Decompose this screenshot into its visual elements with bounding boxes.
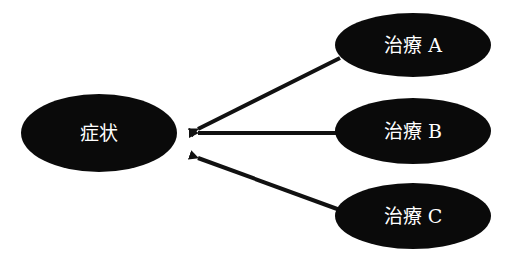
node-treatment-b[interactable]: 治療 B [335, 98, 491, 164]
node-symptom-label: 症状 [80, 122, 118, 144]
node-treatment-a[interactable]: 治療 A [335, 13, 491, 77]
arrows [198, 58, 340, 210]
node-treatment-c[interactable]: 治療 C [335, 183, 491, 249]
diagram-canvas: 症状 治療 A 治療 B 治療 C [0, 0, 514, 262]
node-treatment-a-label: 治療 A [384, 34, 442, 56]
node-treatment-b-label: 治療 B [384, 120, 442, 142]
node-symptom[interactable]: 症状 [21, 94, 177, 172]
node-treatment-c-label: 治療 C [384, 205, 443, 227]
arrow-a-to-symptom [198, 58, 340, 129]
arrow-c-to-symptom [198, 158, 340, 210]
